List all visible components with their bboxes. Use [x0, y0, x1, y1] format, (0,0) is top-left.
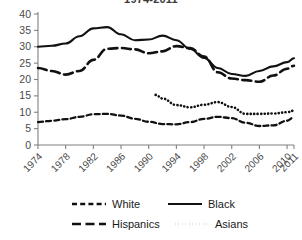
series-line-hispanics: [38, 46, 294, 82]
y-tick-label: 0: [25, 139, 31, 151]
x-tick-label: 2011: [277, 150, 300, 173]
x-tick-label: 1974: [21, 150, 45, 174]
y-tick-label: 5: [25, 122, 31, 134]
chart-container: 1974-2011 0510152025303540 1974197819821…: [0, 0, 302, 240]
x-tick-label: 1994: [159, 150, 183, 174]
x-tick-label: 1998: [187, 150, 211, 174]
y-tick-label: 20: [19, 73, 31, 85]
legend-item-white[interactable]: White: [72, 198, 140, 210]
series-line-white: [38, 114, 294, 126]
legend-label-hispanics: Hispanics: [112, 218, 160, 230]
y-tick-label: 40: [19, 8, 31, 20]
y-tick-label: 30: [19, 40, 31, 52]
legend-item-hispanics[interactable]: Hispanics: [72, 218, 160, 230]
y-tick-label: 10: [19, 106, 31, 118]
y-tick-label: 25: [19, 57, 31, 69]
y-tick-label: 15: [19, 89, 31, 101]
series-line-asians: [156, 95, 294, 114]
chart-legend: WhiteBlackHispanicsAsians: [72, 198, 249, 230]
legend-label-asians: Asians: [215, 218, 249, 230]
x-tick-label: 1982: [76, 150, 100, 174]
y-axis: 0510152025303540: [19, 8, 38, 151]
x-tick-label: 2006: [242, 150, 266, 174]
series-layer: [38, 27, 294, 126]
x-tick-label: 1990: [132, 150, 156, 174]
legend-item-black[interactable]: Black: [168, 198, 235, 210]
x-axis: 1974197819821986199019941998200220062010…: [21, 145, 301, 174]
x-tick-label: 1986: [104, 150, 128, 174]
line-chart-plot: 0510152025303540 19741978198219861990199…: [0, 0, 302, 240]
y-tick-label: 35: [19, 24, 31, 36]
x-tick-label: 1978: [49, 150, 73, 174]
legend-label-black: Black: [208, 198, 235, 210]
legend-label-white: White: [112, 198, 140, 210]
x-tick-label: 2002: [215, 150, 239, 174]
legend-item-asians[interactable]: Asians: [175, 218, 249, 230]
